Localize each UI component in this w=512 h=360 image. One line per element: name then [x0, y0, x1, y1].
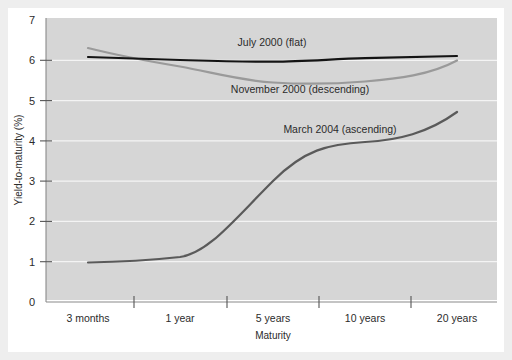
y-tick-label-7: 7	[29, 14, 35, 26]
series-annotation-july-2000: July 2000 (flat)	[238, 36, 307, 48]
y-tick-label-3: 3	[29, 175, 35, 187]
x-tick-label-20-years: 20 years	[437, 312, 477, 324]
x-tick-label-10-years: 10 years	[345, 312, 385, 324]
yield-curve-chart: 7 6 5 4 3 2 1 0 3 months 1 year 5 years	[8, 8, 504, 352]
y-tick-label-5: 5	[29, 95, 35, 107]
y-tick-label-6: 6	[29, 54, 35, 66]
figure-card: 7 6 5 4 3 2 1 0 3 months 1 year 5 years	[8, 8, 504, 352]
y-tick-label-1: 1	[29, 256, 35, 268]
series-annotation-march-2004: March 2004 (ascending)	[283, 123, 396, 135]
y-tick-label-4: 4	[29, 135, 35, 147]
x-tick-label-5-years: 5 years	[256, 312, 290, 324]
x-tick-label-1-year: 1 year	[165, 312, 195, 324]
y-tick-label-0: 0	[29, 296, 35, 308]
x-tick-label-3-months: 3 months	[66, 312, 109, 324]
series-annotation-november-2000: November 2000 (descending)	[231, 83, 369, 95]
chart-svg: 7 6 5 4 3 2 1 0 3 months 1 year 5 years	[8, 8, 504, 352]
y-tick-label-2: 2	[29, 215, 35, 227]
x-axis-title: Maturity	[255, 330, 291, 341]
y-axis-title: Yield-to-maturity (%)	[13, 115, 24, 206]
